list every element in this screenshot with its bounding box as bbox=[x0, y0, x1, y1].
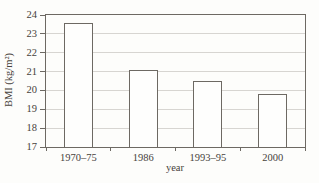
bar bbox=[193, 81, 222, 147]
y-axis-tick-label: 19 bbox=[17, 104, 37, 114]
y-axis-tick-label: 21 bbox=[17, 67, 37, 77]
y-axis-tick bbox=[40, 90, 45, 91]
y-axis-tick bbox=[40, 71, 45, 72]
y-axis-tick bbox=[40, 128, 45, 129]
x-axis-tick bbox=[46, 147, 47, 151]
x-axis-tick bbox=[240, 147, 241, 151]
y-axis-tick-label: 24 bbox=[17, 10, 37, 20]
y-axis-tick-label: 22 bbox=[17, 48, 37, 58]
x-axis-tick-label: 1986 bbox=[133, 152, 154, 163]
x-axis-tick-label: 1970–75 bbox=[60, 152, 97, 163]
x-axis-title: year bbox=[166, 162, 184, 173]
y-axis-tick-label: 18 bbox=[17, 123, 37, 133]
y-axis-tick-label: 23 bbox=[17, 29, 37, 39]
x-axis-tick bbox=[110, 147, 111, 151]
y-axis-title: BMI (kg/m²) bbox=[3, 53, 14, 107]
bmi-bar-chart: BMI (kg/m²) 17181920212223241970–7519861… bbox=[0, 0, 319, 183]
plot-area: 17181920212223241970–7519861993–952000 bbox=[45, 14, 306, 148]
y-axis-tick bbox=[40, 147, 45, 148]
x-axis-tick-label: 1993–95 bbox=[190, 152, 227, 163]
bar bbox=[129, 70, 158, 147]
bar bbox=[258, 94, 287, 147]
y-axis-tick bbox=[40, 15, 45, 16]
x-axis-tick bbox=[305, 147, 306, 151]
y-axis-tick bbox=[40, 52, 45, 53]
bar bbox=[64, 23, 93, 147]
y-axis-tick-label: 17 bbox=[17, 142, 37, 152]
y-axis-tick bbox=[40, 109, 45, 110]
x-axis-tick-label: 2000 bbox=[262, 152, 283, 163]
y-axis-tick bbox=[40, 33, 45, 34]
y-axis-tick-label: 20 bbox=[17, 85, 37, 95]
x-axis-tick bbox=[175, 147, 176, 151]
